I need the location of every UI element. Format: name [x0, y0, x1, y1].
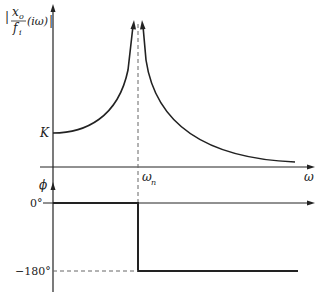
k-label: K — [39, 126, 50, 140]
ylabel-bar-right: | — [49, 14, 53, 28]
magnitude-axis-arrow-icon — [51, 4, 56, 12]
peak-arrow-right-icon — [140, 20, 146, 30]
phase-axis-right-arrow-icon — [307, 201, 315, 206]
tick-0deg: 0° — [30, 197, 43, 210]
phase-curve — [53, 203, 298, 271]
ylabel-denominator-sub: i — [19, 28, 22, 37]
ylabel-numerator-sub: o — [19, 12, 24, 21]
magnitude-curve-left — [53, 26, 133, 133]
phase-axis-arrow-icon — [51, 182, 56, 190]
ylabel-suffix: (iω) — [27, 15, 48, 28]
tick-neg180deg: −180° — [15, 265, 51, 278]
magnitude-curve-right — [143, 26, 295, 162]
omega-axis-arrow-icon — [307, 165, 315, 170]
phi-label: ϕ — [39, 178, 47, 192]
omega-label: ω — [304, 170, 314, 184]
frequency-response-diagram: | x o f i (iω) | K ω n ω ϕ 0° −180° — [0, 0, 319, 294]
ylabel-bar-left: | — [5, 10, 9, 24]
peak-arrow-left-icon — [131, 20, 137, 30]
ylabel-numerator: x — [12, 5, 19, 19]
resonance-sub: n — [151, 178, 156, 187]
